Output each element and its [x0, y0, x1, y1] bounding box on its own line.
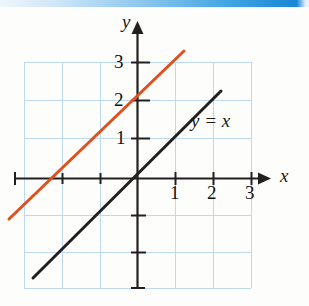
- y-axis: [131, 21, 150, 289]
- y-tick-label-1: 1: [116, 128, 126, 147]
- x-tick-label-2: 2: [207, 183, 217, 202]
- y-axis-label: y: [122, 12, 130, 31]
- coordinate-plane: [0, 0, 309, 306]
- y-tick-label-3: 3: [114, 52, 124, 71]
- line-y-equals-x-plus-2: [9, 51, 184, 219]
- x-tick-label-3: 3: [245, 183, 255, 202]
- x-tick-label-1: 1: [170, 183, 180, 202]
- y-tick-label-2: 2: [114, 90, 124, 109]
- graph-figure: y x 3 2 1 1 2 3 y = x: [0, 0, 309, 306]
- x-axis-label: x: [280, 166, 288, 185]
- line-equation-label: y = x: [191, 111, 230, 130]
